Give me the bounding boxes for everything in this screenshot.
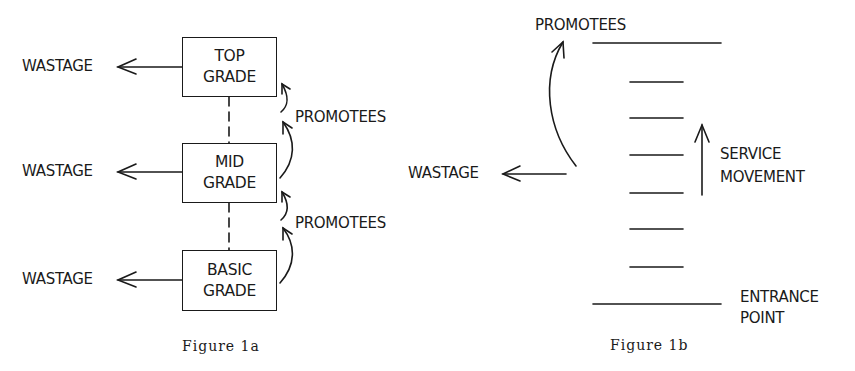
promotees-curve-1b [550,42,576,166]
basic-grade-box: BASIC GRADE [182,250,277,311]
figure-1b-caption: Figure 1b [610,337,688,353]
promotion-arrow-mid-top [280,84,292,178]
top-grade-box: TOP GRADE [182,37,277,97]
wastage-label-mid: WASTAGE [22,164,93,179]
promotees-label-upper: PROMOTEES [295,110,386,125]
wastage-arrow-1b [503,166,566,181]
basic-grade-line2: GRADE [203,281,256,302]
top-grade-line2: GRADE [203,67,256,88]
mid-grade-line2: GRADE [203,173,256,194]
top-grade-line1: TOP [214,46,244,67]
service-movement-label-line1: SERVICE [720,147,781,162]
figure-1a-caption: Figure 1a [182,338,260,354]
wastage-arrow-mid [118,164,182,179]
entrance-point-label-line1: ENTRANCE [740,290,819,305]
wastage-label-1b: WASTAGE [408,166,479,181]
service-movement-arrow [695,125,709,195]
mid-grade-box: MID GRADE [182,143,277,203]
wastage-arrow-basic [118,272,182,287]
promotees-label-lower: PROMOTEES [295,216,386,231]
basic-grade-line1: BASIC [207,260,252,281]
entrance-point-label-line2: POINT [740,311,784,326]
wastage-label-top: WASTAGE [22,59,93,74]
mid-grade-line1: MID [215,152,244,173]
service-movement-label-line2: MOVEMENT [720,170,805,185]
wastage-arrow-top [118,59,182,74]
wastage-label-basic: WASTAGE [22,272,93,287]
promotion-arrow-basic-mid [280,192,292,283]
promotees-label-1b: PROMOTEES [535,18,626,33]
